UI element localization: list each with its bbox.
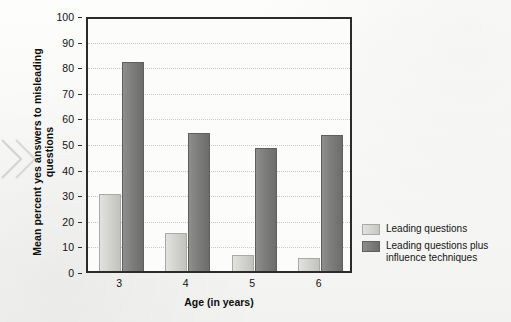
bar-group-age-6: [288, 19, 353, 271]
legend-label: Leading questions plus influence techniq…: [386, 240, 508, 263]
figure-page: Mean percent yes answers to misleading q…: [0, 0, 511, 322]
x-tick-label: 4: [183, 278, 189, 289]
y-tick-mark: [78, 247, 82, 248]
bar-leading-questions-age-5: [232, 255, 254, 271]
y-tick-label: 50: [62, 140, 74, 151]
y-tick-label: 40: [62, 165, 74, 176]
bar-group-age-3: [88, 19, 155, 271]
bar-leading-plus-influence-age-3: [122, 62, 144, 271]
y-axis-ticks: 0102030405060708090100: [52, 0, 82, 322]
light-gray-swatch: [362, 224, 380, 235]
x-tick-label: 3: [116, 278, 122, 289]
bar-group-age-5: [221, 19, 288, 271]
y-tick-mark: [78, 222, 82, 223]
y-tick-mark: [78, 119, 82, 120]
y-tick-mark: [78, 68, 82, 69]
x-axis-label: Age (in years): [86, 296, 352, 308]
bar-leading-plus-influence-age-6: [321, 135, 343, 271]
y-tick-label: 10: [62, 242, 74, 253]
y-tick-label: 100: [56, 12, 74, 23]
plot-area: [86, 17, 352, 273]
x-tick-label: 5: [249, 278, 255, 289]
bar-leading-questions-age-3: [99, 194, 121, 271]
y-tick-mark: [78, 94, 82, 95]
y-tick-mark: [78, 171, 82, 172]
x-tick-label: 6: [316, 278, 322, 289]
bar-leading-questions-age-6: [298, 258, 320, 271]
legend-label: Leading questions: [386, 223, 467, 235]
y-tick-label: 70: [62, 89, 74, 100]
y-tick-mark: [78, 145, 82, 146]
legend-item: Leading questions: [362, 223, 508, 235]
y-tick-label: 0: [68, 268, 74, 279]
y-tick-mark: [78, 43, 82, 44]
legend-item: Leading questions plus influence techniq…: [362, 240, 508, 263]
y-tick-mark: [78, 273, 82, 274]
y-tick-mark: [78, 17, 82, 18]
y-tick-label: 60: [62, 114, 74, 125]
dark-gray-swatch: [362, 241, 380, 252]
x-axis-ticks: 3456: [86, 278, 352, 294]
y-tick-label: 20: [62, 217, 74, 228]
bar-leading-plus-influence-age-4: [188, 133, 210, 271]
bar-leading-plus-influence-age-5: [255, 148, 277, 271]
y-tick-mark: [78, 196, 82, 197]
y-tick-label: 30: [62, 191, 74, 202]
bar-leading-questions-age-4: [165, 233, 187, 271]
bar-group-age-4: [155, 19, 222, 271]
legend: Leading questionsLeading questions plus …: [362, 223, 508, 268]
y-tick-label: 80: [62, 63, 74, 74]
y-tick-label: 90: [62, 37, 74, 48]
